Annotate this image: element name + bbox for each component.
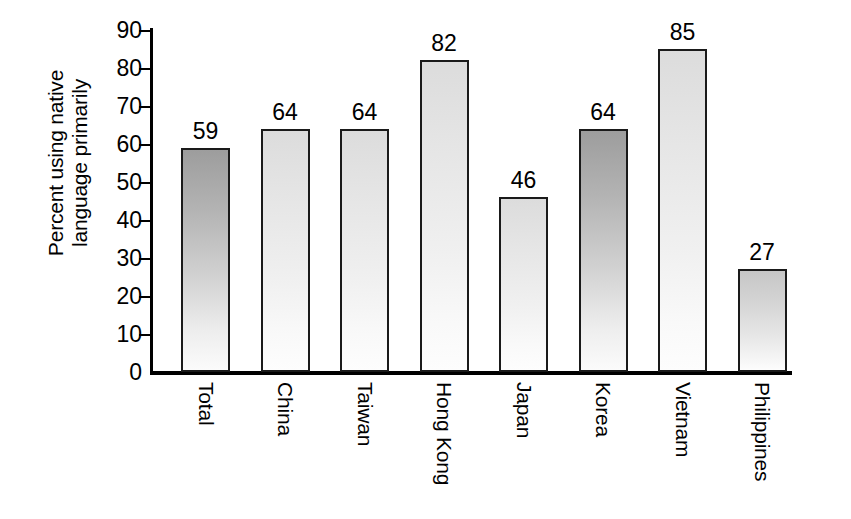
bar	[261, 129, 310, 372]
bar-chart: Percent using native language primarily …	[0, 0, 851, 519]
bar	[420, 60, 469, 372]
bar	[181, 148, 230, 372]
bar	[340, 129, 389, 372]
x-axis-category-label: Vietnam	[672, 382, 694, 457]
bar	[499, 197, 548, 372]
bar-value-label: 27	[738, 241, 787, 264]
bar-value-label: 82	[420, 32, 469, 55]
x-axis-category-label: China	[274, 382, 296, 436]
x-axis-category-label: Total	[195, 382, 217, 425]
bar	[738, 269, 787, 372]
x-axis-category-label: Hong Kong	[433, 382, 455, 485]
bar-value-label: 85	[658, 21, 707, 44]
x-axis-category-label: Philippines	[751, 382, 773, 481]
bar	[579, 129, 628, 372]
bar-value-label: 64	[261, 101, 310, 124]
bar-value-label: 59	[181, 120, 230, 143]
x-axis-category-label: Japan	[513, 382, 535, 438]
x-axis-category-label: Korea	[592, 382, 614, 437]
bar-value-label: 64	[579, 101, 628, 124]
x-axis-category-label: Taiwan	[354, 382, 376, 446]
bar-value-label: 64	[340, 101, 389, 124]
plot-area: 59Total64China64Taiwan82Hong Kong46Japan…	[0, 0, 851, 519]
bar-value-label: 46	[499, 169, 548, 192]
bar	[658, 49, 707, 372]
